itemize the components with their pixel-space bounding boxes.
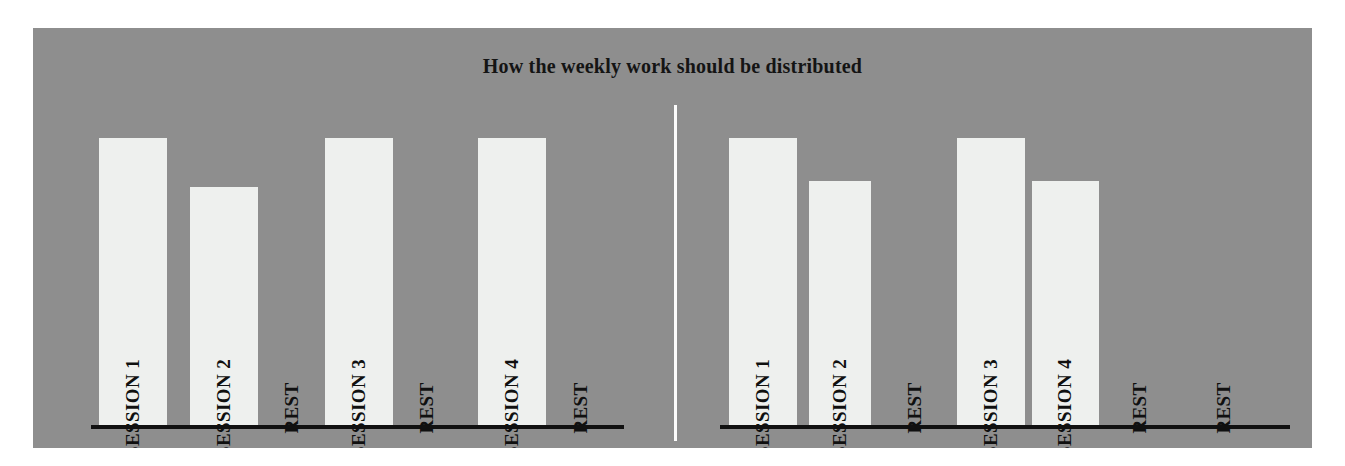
axis-baseline-left [91, 425, 624, 429]
bar-label: REST [401, 299, 453, 419]
bar [325, 138, 393, 425]
bar-label: REST [266, 299, 318, 419]
bar-label: REST [555, 299, 607, 419]
bar [729, 138, 797, 425]
chart-figure: How the weekly work should be distribute… [0, 0, 1345, 466]
axis-baseline-right [720, 425, 1290, 429]
bar-label: REST [1198, 299, 1250, 419]
subchart-left: SESSION 1SESSION 2RESTSESSION 3RESTSESSI… [33, 28, 674, 448]
chart-panel: How the weekly work should be distribute… [33, 28, 1312, 448]
bar [809, 181, 871, 425]
bar [99, 138, 167, 425]
bar [190, 187, 258, 425]
subchart-right: SESSION 1SESSION 2RESTSESSION 3SESSION 4… [677, 28, 1312, 448]
bar [957, 138, 1025, 425]
bar [478, 138, 546, 425]
bar-label: REST [1114, 299, 1166, 419]
bar-label: REST [889, 299, 941, 419]
bar [1032, 181, 1099, 425]
